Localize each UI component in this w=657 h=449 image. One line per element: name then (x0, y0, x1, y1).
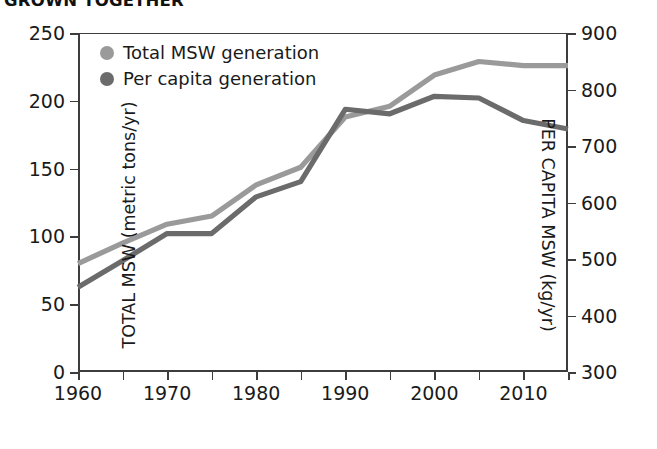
y-axis-left-tick-label: 100 (29, 227, 65, 246)
x-axis-tick (256, 372, 258, 380)
y-axis-right-title: PER CAPITA MSW (kg/yr) (538, 118, 558, 332)
x-axis-tick (212, 372, 214, 380)
y-axis-right-tick-label: 800 (581, 81, 617, 100)
x-axis-tick (345, 372, 347, 380)
page-title: GROWN TOGETHER (4, 0, 184, 10)
legend-label-per-capita: Per capita generation (123, 68, 316, 89)
y-axis-right-tick-label: 600 (581, 194, 617, 213)
y-axis-right-tick (568, 146, 576, 148)
y-axis-left-tick (70, 236, 78, 238)
y-axis-left-tick (70, 169, 78, 171)
y-axis-left-tick (70, 372, 78, 374)
y-axis-right-tick-label: 700 (581, 137, 617, 156)
y-axis-right-tick (568, 316, 576, 318)
x-axis-tick (390, 372, 392, 380)
y-axis-left-tick (70, 101, 78, 103)
x-axis-tick (301, 372, 303, 380)
y-axis-right-tick-label: 900 (581, 24, 617, 43)
y-axis-left-tick-label: 50 (41, 295, 65, 314)
legend-item-per-capita: Per capita generation (100, 68, 319, 89)
legend-item-total-msw: Total MSW generation (100, 42, 319, 63)
x-axis-tick (523, 372, 525, 380)
y-axis-right-tick-label: 400 (581, 307, 617, 326)
y-axis-right-tick-label: 300 (581, 363, 617, 382)
y-axis-right-tick (568, 203, 576, 205)
x-axis-tick (123, 372, 125, 380)
x-axis-tick (568, 372, 570, 380)
legend-dot-icon-per-capita (100, 72, 114, 86)
x-axis-tick (434, 372, 436, 380)
y-axis-right-tick (568, 259, 576, 261)
y-axis-left-tick (70, 33, 78, 35)
legend-dot-icon-total-msw (100, 46, 114, 60)
y-axis-right-tick (568, 90, 576, 92)
x-axis-tick (479, 372, 481, 380)
y-axis-left-tick-label: 250 (29, 24, 65, 43)
y-axis-left-tick-label: 0 (53, 363, 65, 382)
y-axis-left-tick-label: 150 (29, 160, 65, 179)
y-axis-right-tick-label: 500 (581, 250, 617, 269)
y-axis-left-tick (70, 304, 78, 306)
y-axis-left-title: TOTAL MSW (metric tons/yr) (119, 101, 139, 348)
x-axis-tick (167, 372, 169, 380)
x-axis-tick-label: 1970 (143, 384, 191, 403)
x-axis-tick-label: 1980 (232, 384, 280, 403)
x-axis-tick-label: 1990 (321, 384, 369, 403)
y-axis-left-tick-label: 200 (29, 92, 65, 111)
legend: Total MSW generation Per capita generati… (100, 42, 319, 94)
x-axis-tick-label: 1960 (54, 384, 102, 403)
legend-label-total-msw: Total MSW generation (123, 42, 319, 63)
series-line-per-capita (78, 96, 568, 287)
plot-area: 050100150200250 300400500600700800900 19… (78, 33, 568, 372)
x-axis-tick (78, 372, 80, 380)
y-axis-right-tick (568, 33, 576, 35)
x-axis-tick-label: 2000 (410, 384, 458, 403)
x-axis-tick-label: 2010 (499, 384, 547, 403)
